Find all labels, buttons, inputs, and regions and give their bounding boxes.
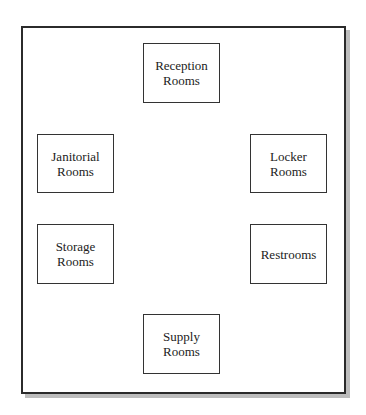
restrooms-box: Restrooms bbox=[250, 224, 327, 284]
reception-rooms-label: Reception Rooms bbox=[155, 58, 208, 88]
supply-rooms-box: Supply Rooms bbox=[143, 314, 220, 374]
storage-rooms-label: Storage Rooms bbox=[56, 239, 96, 269]
reception-rooms-box: Reception Rooms bbox=[143, 43, 220, 103]
restrooms-label: Restrooms bbox=[261, 247, 317, 262]
locker-rooms-box: Locker Rooms bbox=[250, 134, 327, 193]
janitorial-rooms-box: Janitorial Rooms bbox=[37, 134, 114, 193]
locker-rooms-label: Locker Rooms bbox=[270, 149, 307, 179]
supply-rooms-label: Supply Rooms bbox=[163, 329, 200, 359]
janitorial-rooms-label: Janitorial Rooms bbox=[51, 149, 99, 179]
storage-rooms-box: Storage Rooms bbox=[37, 224, 114, 284]
